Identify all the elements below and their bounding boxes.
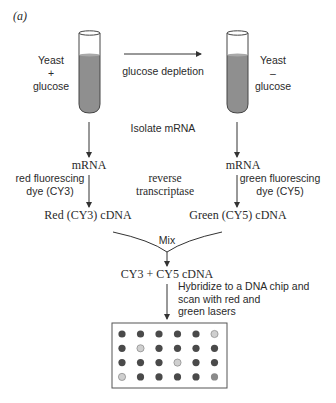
hybridize-line3: green lasers (178, 305, 309, 318)
left-dye-line1: red fluorescing (12, 172, 88, 185)
left-dye-label: red fluorescing dye (CY3) (12, 172, 88, 198)
chip-spot-dark (174, 373, 181, 380)
right-dye-line2: dye (CY5) (238, 185, 322, 198)
isolate-step-label: Isolate mRNA (118, 122, 208, 134)
chip-spot-dark (192, 330, 199, 337)
left-cdna-label: Red (CY3) cDNA (38, 208, 138, 223)
chip-spot-dark (155, 345, 162, 352)
chip-spot-dark (118, 359, 125, 366)
hybridize-line1: Hybridize to a DNA chip and (178, 280, 309, 293)
left-culture-line3: glucose (28, 80, 74, 93)
test-tube-left-icon (79, 31, 100, 113)
left-culture-line1: Yeast (28, 54, 74, 67)
chip-spot-dark (137, 373, 144, 380)
chip-spot-light (118, 373, 125, 380)
chip-spot-dark (155, 359, 162, 366)
left-dye-line2: dye (CY3) (12, 185, 88, 198)
chip-spot-dark (192, 359, 199, 366)
left-culture-label: Yeast + glucose (28, 54, 74, 93)
chip-spot-dark (211, 345, 218, 352)
right-culture-label: Yeast – glucose (250, 54, 296, 93)
chip-spot-dark (211, 359, 218, 366)
chip-spot-light (211, 330, 218, 337)
chip-spot-light (137, 345, 144, 352)
chip-spot-light (174, 359, 181, 366)
enzyme-line2: transcriptase (125, 185, 205, 198)
chip-spot-dark (155, 373, 162, 380)
chip-spot-dark (118, 345, 125, 352)
enzyme-label: reverse transcriptase (125, 172, 205, 198)
right-culture-line1: Yeast (250, 54, 296, 67)
chip-spot-medium (211, 373, 218, 380)
panel-label: (a) (13, 9, 27, 24)
right-culture-line2: – (250, 67, 296, 80)
hybridize-line2: scan with red and (178, 293, 309, 306)
enzyme-line1: reverse (125, 172, 205, 185)
chip-spot-dark (192, 373, 199, 380)
hybridize-label: Hybridize to a DNA chip and scan with re… (178, 280, 309, 318)
chip-spot-dark (174, 345, 181, 352)
right-culture-line3: glucose (250, 80, 296, 93)
right-mrna-label: mRNA (218, 158, 268, 173)
right-dye-label: green fluorescing dye (CY5) (238, 172, 322, 198)
test-tube-right-icon (227, 31, 248, 113)
left-culture-line2: + (28, 67, 74, 80)
chip-spot-dark (137, 359, 144, 366)
transition-label: glucose depletion (113, 65, 213, 77)
chip-spot-dark (174, 330, 181, 337)
right-cdna-label: Green (CY5) cDNA (186, 208, 290, 223)
mix-label: Mix (150, 234, 184, 246)
chip-spot-dark (192, 345, 199, 352)
chip-spot-dark (137, 330, 144, 337)
dna-chip (112, 323, 227, 388)
chip-spot-dark (118, 330, 125, 337)
left-mrna-label: mRNA (64, 158, 114, 173)
chip-spot-dark (155, 330, 162, 337)
right-dye-line1: green fluorescing (238, 172, 322, 185)
